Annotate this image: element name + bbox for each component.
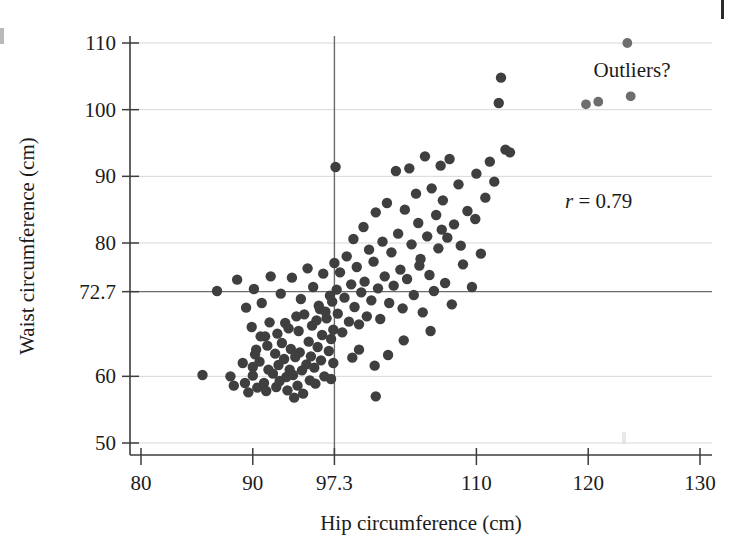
scatter-point: [254, 356, 264, 366]
scatter-point: [496, 72, 506, 82]
scatter-point: [382, 198, 392, 208]
scatter-point: [444, 154, 454, 164]
scatter-point: [373, 283, 383, 293]
scatter-point: [352, 262, 362, 272]
scatter-point: [320, 306, 330, 316]
scatter-point: [289, 392, 299, 402]
scatter-point: [420, 151, 430, 161]
x-tick-label: 97.3: [316, 471, 353, 495]
y-tick-label: 72.7: [79, 280, 116, 304]
scatter-point: [438, 195, 448, 205]
scatter-point: [354, 344, 364, 354]
left-edge-artifact: [0, 28, 4, 44]
scatter-point: [354, 319, 364, 329]
scatter-point: [229, 380, 239, 390]
scatter-point: [485, 156, 495, 166]
scatter-point: [369, 360, 379, 370]
scatter-point: [335, 267, 345, 277]
scatter-point: [437, 224, 447, 234]
scatter-point-outlier: [626, 91, 636, 101]
scatter-point: [264, 317, 274, 327]
scatter-point: [371, 391, 381, 401]
y-tick-label: 80: [95, 231, 116, 255]
scatter-point: [476, 248, 486, 258]
scatter-point: [375, 314, 385, 324]
scatter-point: [426, 183, 436, 193]
scatter-point: [366, 295, 376, 305]
y-tick-label: 60: [95, 364, 116, 388]
scatter-point: [324, 346, 334, 356]
scatter-point: [330, 162, 340, 172]
correlation-value: = 0.79: [573, 189, 632, 213]
scatter-point: [295, 347, 305, 357]
scatter-point: [418, 307, 428, 317]
scatter-point: [326, 374, 336, 384]
scatter-point: [348, 234, 358, 244]
scatter-point: [225, 371, 235, 381]
scatter-point: [272, 328, 282, 338]
scatter-point: [238, 358, 248, 368]
scatter-point: [339, 292, 349, 302]
scatter-point: [326, 334, 336, 344]
scatter-point: [470, 214, 480, 224]
scatter-point: [260, 331, 270, 341]
scatter-point: [262, 340, 272, 350]
scatter-point: [296, 294, 306, 304]
axis-smudge-artifact: [622, 432, 626, 444]
scatter-point: [391, 166, 401, 176]
scatter-point: [304, 336, 314, 346]
scatter-point: [337, 327, 347, 337]
scatter-point: [197, 370, 207, 380]
scatter-point: [449, 219, 459, 229]
y-tick-label: 110: [85, 31, 116, 55]
scatter-point: [240, 378, 250, 388]
scatter-point: [331, 284, 341, 294]
scatter-point: [414, 260, 424, 270]
scatter-point: [261, 386, 271, 396]
x-tick-label: 120: [572, 471, 604, 495]
scatter-point: [277, 338, 287, 348]
scatter-point: [293, 326, 303, 336]
scatter-point: [458, 259, 468, 269]
scatter-point: [312, 342, 322, 352]
scatter-point: [362, 311, 372, 321]
scatter-point: [311, 315, 321, 325]
y-axis-title: Waist circumference (cm): [15, 137, 39, 355]
gridlines: [130, 43, 712, 443]
scatter-point: [318, 268, 328, 278]
x-axis-title: Hip circumference (cm): [320, 511, 522, 535]
scatter-point: [383, 350, 393, 360]
y-tick-label: 50: [95, 431, 116, 455]
y-tick-label: 90: [95, 164, 116, 188]
scatter-point: [308, 282, 318, 292]
scatter-point: [346, 279, 356, 289]
scatter-point: [291, 311, 301, 321]
x-tick-label: 90: [242, 471, 263, 495]
scatter-point: [241, 302, 251, 312]
scatter-point: [243, 387, 253, 397]
scatter-point: [251, 344, 261, 354]
scatter-point: [431, 210, 441, 220]
scatter-point: [447, 299, 457, 309]
scatter-point: [276, 288, 286, 298]
scatter-point: [287, 272, 297, 282]
scatter-point: [480, 192, 490, 202]
scatter-point: [406, 239, 416, 249]
scatter-point: [280, 318, 290, 328]
scatter-point: [359, 276, 369, 286]
scatter-point: [288, 370, 298, 380]
scatter-point: [317, 330, 327, 340]
scatter-point: [358, 222, 368, 232]
scatter-point: [435, 160, 445, 170]
scatter-point: [467, 282, 477, 292]
scatter-point: [279, 354, 289, 364]
x-tick-label: 130: [684, 471, 716, 495]
scatter-point: [329, 258, 339, 268]
scatter-point: [440, 278, 450, 288]
scatter-point: [316, 355, 326, 365]
scatter-point: [393, 228, 403, 238]
scatter-point: [404, 163, 414, 173]
scatter-point: [232, 274, 242, 284]
scatter-plot-canvas: 506072.78090100110 809097.3110120130 Hip…: [0, 0, 752, 555]
reference-lines: [130, 36, 712, 455]
